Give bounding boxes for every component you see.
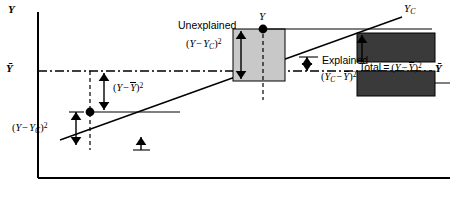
total-area-bar-lower	[357, 71, 435, 96]
unexplained-label-formula: (Y−YC)2	[186, 38, 221, 51]
term-ybar: Ȳ	[130, 83, 136, 94]
regression-line-label: YC	[404, 3, 415, 16]
total-title: Total	[359, 61, 381, 73]
lower-unexplained-formula: (Y−YC)2	[12, 122, 47, 135]
lower-total-formula: (Y−Ȳ)2	[113, 82, 143, 94]
minus-sign: −	[122, 82, 130, 93]
minus-sign: −	[335, 71, 343, 82]
data-point-lower	[86, 108, 95, 117]
data-point-upper	[259, 25, 268, 34]
total-area-bar-upper	[357, 33, 435, 62]
explained-label-formula: (YC−Ȳ)2	[321, 71, 356, 84]
equals-sign: =	[381, 61, 391, 73]
minus-sign: −	[401, 62, 409, 73]
total-label: Total=(Y−Ȳ)2	[359, 62, 422, 74]
term-ybar: Ȳ	[409, 63, 415, 74]
term-ybar: Ȳ	[343, 72, 349, 83]
y-mean-label-right: Ȳ	[435, 63, 442, 74]
exponent: 2	[418, 61, 422, 70]
exponent: 2	[44, 121, 48, 130]
upper-point-label: Y	[259, 11, 265, 22]
exponent: 2	[353, 70, 357, 79]
y-mean-label-left: Ȳ	[6, 63, 13, 74]
y-axis-label: Y	[8, 4, 15, 15]
exponent: 2	[218, 37, 222, 46]
exponent: 2	[140, 81, 144, 90]
term-y: Y	[395, 62, 401, 73]
regression-line-label-subscript: C	[410, 7, 415, 16]
unexplained-label-title: Unexplained	[178, 20, 236, 31]
regression-variance-diagram: Y Ȳ Ȳ YC Y Unexplained (Y−YC)2 Explain…	[0, 0, 455, 198]
